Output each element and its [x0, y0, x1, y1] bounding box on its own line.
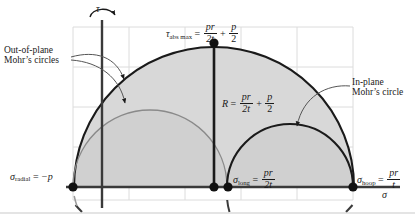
out-of-plane-annotation: Out-of-plane Mohr’s circles	[4, 45, 59, 66]
sigma-axis-label: σ	[382, 190, 387, 201]
sigma-radial-value: −p	[41, 171, 53, 182]
tau-abs-max-fraction-2: p2	[229, 22, 238, 45]
radius-label: R = pr2t + p2	[222, 92, 275, 115]
tau-axis-label: τ	[96, 4, 100, 15]
sigma-long-fraction: pr2t	[262, 168, 275, 191]
sigma-radial-subscript: radial	[15, 175, 30, 182]
tau-abs-max-equals: =	[195, 28, 201, 39]
sigma-long-label: σlong = pr2t	[233, 168, 276, 191]
radius-fraction-1: pr2t	[240, 92, 253, 115]
point-sigma-radial	[68, 182, 77, 191]
sigma-hoop-equals: =	[378, 174, 384, 185]
sigma-radial-equals: =	[33, 171, 39, 182]
figure-canvas: τ σ Out-of-plane Mohr’s circles In-plane…	[0, 0, 415, 218]
sigma-hoop-subscript: hoop	[362, 179, 376, 186]
in-plane-line-1: In-plane	[352, 77, 403, 87]
radius-plus: +	[256, 98, 262, 109]
out-of-plane-line-2: Mohr’s circles	[4, 55, 59, 65]
tau-abs-max-subscript: abs max	[170, 33, 192, 40]
sigma-long-equals: =	[253, 174, 259, 185]
tau-abs-max-label: τabs max = pr2t + p2	[166, 22, 239, 45]
radius-fraction-2: p2	[265, 92, 274, 115]
sigma-long-subscript: long	[238, 179, 250, 186]
point-center	[209, 182, 218, 191]
sigma-hoop-label: σhoop = prt	[357, 168, 401, 191]
sigma-hoop-fraction: prt	[387, 168, 400, 191]
tau-abs-max-fraction-1: pr2t	[204, 22, 217, 45]
in-plane-line-2: Mohr’s circle	[352, 87, 403, 97]
radius-symbol: R	[222, 98, 228, 109]
tau-abs-max-plus: +	[220, 28, 226, 39]
in-plane-annotation: In-plane Mohr’s circle	[352, 77, 403, 98]
radius-equals: =	[231, 98, 237, 109]
rotation-arrow-icon	[90, 9, 115, 17]
sigma-radial-label: σradial = −p	[10, 172, 53, 183]
out-of-plane-line-1: Out-of-plane	[4, 45, 59, 55]
point-sigma-long	[223, 182, 232, 191]
